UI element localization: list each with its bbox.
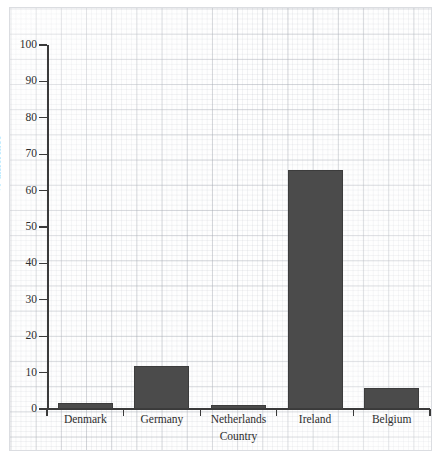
y-axis-tick-label: 50: [3, 221, 37, 233]
x-axis-tick-label: Ireland: [277, 414, 354, 426]
x-axis-tick-label: Netherlands: [200, 414, 277, 426]
y-axis-tick: [39, 81, 47, 82]
bar-denmark: [58, 403, 113, 409]
y-axis-tick-label: 30: [3, 294, 37, 306]
y-axis-tick-label-wrap: 50: [0, 221, 37, 233]
bar-ireland: [288, 170, 343, 409]
y-axis-tick-label-wrap: 20: [0, 330, 37, 342]
y-axis-tick: [39, 44, 47, 45]
y-axis-tick-label: 40: [3, 257, 37, 269]
bar-netherlands: [211, 405, 266, 409]
y-axis-tick-label: 10: [3, 367, 37, 379]
y-axis-tick: [39, 336, 47, 337]
x-axis-tick-label: Germany: [124, 414, 201, 426]
y-axis-tick-label: 80: [3, 112, 37, 124]
plot-area: [47, 45, 430, 409]
bar-belgium: [364, 388, 419, 409]
y-axis-tick: [39, 117, 47, 118]
y-axis-tick-label-wrap: 70: [0, 148, 37, 160]
y-axis-tick: [39, 154, 47, 155]
y-axis-tick-label: 60: [3, 185, 37, 197]
y-axis-tick: [39, 190, 47, 191]
y-axis-tick-label-wrap: 100: [0, 39, 37, 51]
y-axis-tick-label: 100: [3, 39, 37, 51]
y-axis-tick-label-wrap: 80: [0, 112, 37, 124]
x-axis-title: Country: [47, 430, 430, 442]
bar-germany: [134, 366, 189, 409]
y-axis-tick-label: 70: [3, 148, 37, 160]
chart-figure: 0102030405060708090100 Country % differe…: [0, 0, 445, 462]
y-axis-tick: [39, 372, 47, 373]
y-axis-title: % difference: [0, 136, 2, 192]
y-axis-tick-label: 90: [3, 75, 37, 87]
x-axis-tick-label: Denmark: [47, 414, 124, 426]
y-axis-tick-label-wrap: 90: [0, 75, 37, 87]
y-axis-tick-label-wrap: 40: [0, 257, 37, 269]
y-axis-tick-label-wrap: 0: [0, 403, 37, 415]
y-axis-tick: [39, 263, 47, 264]
y-axis-tick-label: 20: [3, 330, 37, 342]
x-axis-tick-label: Belgium: [353, 414, 430, 426]
y-axis-tick-label-wrap: 60: [0, 185, 37, 197]
y-axis-tick-label-wrap: 10: [0, 367, 37, 379]
y-axis-tick: [39, 299, 47, 300]
y-axis-tick-label-wrap: 30: [0, 294, 37, 306]
y-axis-tick-label: 0: [3, 403, 37, 415]
y-axis-tick: [39, 226, 47, 227]
